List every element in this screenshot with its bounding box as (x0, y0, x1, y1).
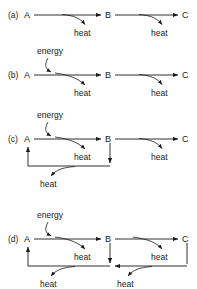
panel-c-energy-label: energy (37, 110, 64, 120)
panel-d-feedback1-heat-branch (51, 267, 75, 277)
panel-c-heat-label-2: heat (151, 152, 168, 162)
panel-c-node-B: B (105, 134, 111, 144)
panel-d-heat-label-1: heat (74, 252, 91, 262)
panel-d-node-C: C (182, 234, 189, 244)
panel-c-node-A: A (24, 134, 30, 144)
diagram-canvas: (a) A B C heat heat energy (b) A B C (0, 0, 197, 289)
panel-b-energy-arrow (46, 58, 51, 72)
panel-b-label: (b) (8, 70, 19, 80)
panel-d-feedback1-return-to-A (28, 247, 110, 266)
panel-a-node-C: C (182, 10, 189, 20)
energy-flow-diagram-figure: (a) A B C heat heat energy (b) A B C (0, 0, 197, 289)
panel-b-heat-label-1: heat (74, 88, 91, 98)
panel-c: energy (c) A B C heat heat heat (8, 110, 189, 189)
panel-d-feedback1-heat-label: heat (40, 279, 57, 289)
panel-b-node-B: B (105, 70, 111, 80)
panel-a-heat-branch-1 (62, 15, 85, 25)
panel-a-heat-branch-2 (139, 15, 162, 25)
panel-d-label: (d) (8, 234, 19, 244)
panel-c-node-C: C (182, 134, 189, 144)
panel-d: energy (d) A B C heat heat heat heat (8, 210, 189, 289)
panel-c-label: (c) (8, 134, 18, 144)
panel-b-node-A: A (24, 70, 30, 80)
panel-b-heat-branch-2 (139, 75, 162, 85)
panel-a-node-A: A (24, 10, 30, 20)
panel-c-energy-arrow (46, 122, 51, 136)
panel-c-feedback-heat-branch (51, 167, 75, 177)
panel-b-energy-label: energy (37, 46, 64, 56)
panel-b-node-C: C (182, 70, 189, 80)
panel-a-label: (a) (8, 10, 19, 20)
panel-c-heat-label-1: heat (74, 152, 91, 162)
panel-d-feedback2-heat-branch (128, 267, 152, 277)
panel-d-feedback2-heat-label: heat (117, 279, 134, 289)
panel-d-node-B: B (105, 234, 111, 244)
panel-a-heat-label-1: heat (74, 28, 91, 38)
panel-a-heat-label-2: heat (151, 28, 168, 38)
panel-d-node-A: A (24, 234, 30, 244)
panel-b-heat-label-2: heat (151, 88, 168, 98)
panel-a-node-B: B (105, 10, 111, 20)
panel-d-energy-arrow (46, 222, 51, 236)
panel-d-energy-label: energy (37, 210, 64, 220)
panel-d-heat-label-2: heat (151, 252, 168, 262)
panel-c-feedback-return-to-A (28, 147, 110, 166)
panel-c-heat-branch-2 (139, 139, 162, 149)
panel-b: energy (b) A B C heat heat (8, 46, 189, 98)
panel-a: (a) A B C heat heat (8, 10, 189, 38)
panel-c-feedback-heat-label: heat (40, 179, 57, 189)
